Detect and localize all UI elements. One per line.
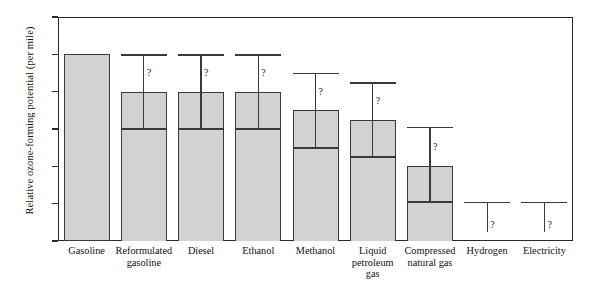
bar-lower-bound-line [350,157,396,158]
bar-column[interactable]: ? [235,17,281,241]
bar-column[interactable]: ? [464,17,510,241]
x-axis-label: Reformulatedgasoline [115,245,172,268]
bar-column[interactable]: ? [121,17,167,241]
x-axis-labels: GasolineReformulatedgasolineDieselEthano… [58,245,573,291]
whisker-stem [372,82,373,157]
uncertainty-question-mark: ? [204,68,208,78]
whisker-stem [429,127,430,202]
x-axis-label-line: gasoline [115,257,172,269]
whisker-stem [143,54,144,129]
uncertainty-question-mark: ? [490,220,494,230]
x-axis-label-line: Electricity [516,245,573,257]
bar-column[interactable]: ? [407,17,453,241]
y-axis-title: Relative ozone-forming potential (per mi… [24,6,35,236]
whisker-stem [200,54,201,129]
bar-column[interactable]: ? [521,17,567,241]
ozone-forming-potential-chart: Relative ozone-forming potential (per mi… [0,0,592,293]
bar-lower-segment [350,157,396,241]
x-axis-label-line: Reformulated [115,245,172,257]
x-axis-label-line: gas [344,268,401,280]
x-axis-label: Diesel [172,245,229,257]
bar-column[interactable] [64,17,110,241]
x-axis-label-line: Methanol [287,245,344,257]
uncertainty-question-mark: ? [261,68,265,78]
x-axis-label-line: Ethanol [230,245,287,257]
uncertainty-question-mark: ? [319,87,323,97]
bar-column[interactable]: ? [293,17,339,241]
x-axis-label: Hydrogen [459,245,516,257]
x-axis-label-line: Gasoline [58,245,115,257]
x-axis-label-line: Diesel [172,245,229,257]
x-axis-label-line: Compressed [401,245,458,257]
whisker-stem [315,73,316,148]
x-axis-label: Compressednatural gas [401,245,458,268]
bar-lower-segment [407,202,453,241]
bar-lower-segment [178,129,224,241]
x-axis-label: Methanol [287,245,344,257]
x-axis-label-line: Liquid [344,245,401,257]
bar-column[interactable]: ? [350,17,396,241]
bar-lower-bound-line [121,129,167,130]
bar-lower-segment [235,129,281,241]
uncertainty-question-mark: ? [547,220,551,230]
x-axis-label: Electricity [516,245,573,257]
bar-lower-bound-line [407,202,453,203]
whisker-stem [544,202,545,232]
uncertainty-question-mark: ? [433,142,437,152]
whisker-stem [258,54,259,129]
uncertainty-question-mark: ? [376,96,380,106]
x-axis-label: Ethanol [230,245,287,257]
plot-data-area: ???????? [58,17,573,241]
bar-lower-bound-line [293,148,339,149]
x-axis-label-line: natural gas [401,257,458,269]
whisker-stem [487,202,488,232]
x-axis-label: Liquidpetroleumgas [344,245,401,280]
bar-lower-bound-line [235,129,281,130]
x-axis-label-line: Hydrogen [459,245,516,257]
x-axis-label: Gasoline [58,245,115,257]
bar-column[interactable]: ? [178,17,224,241]
bar-box [64,54,110,241]
bar-lower-segment [293,148,339,241]
bar-lower-segment [121,129,167,241]
uncertainty-question-mark: ? [147,68,151,78]
x-axis-label-line: petroleum [344,257,401,269]
bar-lower-bound-line [178,129,224,130]
